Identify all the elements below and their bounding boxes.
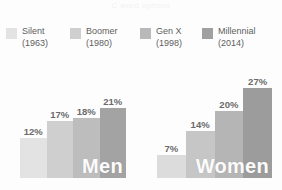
legend-item-boomer: Boomer (1980) <box>70 26 140 49</box>
legend-label-generation-genx: Gen X <box>156 26 182 38</box>
bar-rect <box>47 121 74 178</box>
bar-value-label: 14% <box>186 119 215 130</box>
legend-label-generation-millennial: Millennial <box>218 26 256 38</box>
chart-panel-women: 7% 14% 20% 27% Women <box>157 66 272 178</box>
bar-value-label: 27% <box>243 76 272 87</box>
bar-men-boomer: 17% <box>47 66 74 178</box>
legend-label-generation-boomer: Boomer <box>86 26 118 38</box>
legend-swatch-icon-genx <box>140 28 151 39</box>
panel-title-women: Women <box>196 156 269 176</box>
legend-label-year-genx: (1998) <box>156 38 182 50</box>
legend-item-silent: Silent (1963) <box>6 26 70 49</box>
bar-value-label: 21% <box>100 96 127 107</box>
bar-rect <box>157 155 186 178</box>
legend-swatch-icon-millennial <box>202 28 213 39</box>
bar-men-silent: 12% <box>20 66 47 178</box>
watermark-text: C word options <box>0 1 282 10</box>
bar-rect <box>20 138 47 178</box>
legend-item-genx: Gen X (1998) <box>140 26 202 49</box>
bar-value-label: 12% <box>20 126 47 137</box>
chart-legend: Silent (1963) Boomer (1980) Gen X (1998)… <box>6 26 278 52</box>
bar-value-label: 20% <box>215 99 244 110</box>
legend-label-year-silent: (1963) <box>22 38 48 50</box>
bar-value-label: 7% <box>157 143 186 154</box>
chart-figure: C word options Silent (1963) Boomer (198… <box>0 0 282 190</box>
bar-value-label: 18% <box>73 106 100 117</box>
legend-label-generation-silent: Silent <box>22 26 48 38</box>
bar-value-label: 17% <box>47 109 74 120</box>
legend-label-year-boomer: (1980) <box>86 38 118 50</box>
chart-panel-men: 12% 17% 18% 21% Men <box>20 66 126 178</box>
panel-title-men: Men <box>82 156 123 176</box>
legend-label-year-millennial: (2014) <box>218 38 256 50</box>
legend-swatch-icon-silent <box>6 28 17 39</box>
legend-item-millennial: Millennial (2014) <box>202 26 278 49</box>
bar-women-silent: 7% <box>157 66 186 178</box>
legend-swatch-icon-boomer <box>70 28 81 39</box>
